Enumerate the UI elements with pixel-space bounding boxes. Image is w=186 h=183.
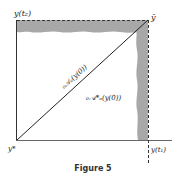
figure-diagram: y(t₂) ȳ y* y(t₁) ₀𝒜ₐ(y(0)) ₀𝒜*ₐ(y(0)) (0, 0, 186, 183)
figure-5: y(t₂) ȳ y* y(t₁) ₀𝒜ₐ(y(0)) ₀𝒜*ₐ(y(0)) Fi… (0, 0, 186, 183)
top-shaded-band (17, 20, 148, 33)
right-shaded-band (136, 20, 148, 140)
label-bottom-left: y* (7, 145, 16, 153)
label-lower: ₀𝒜*ₐ(y(0)) (85, 94, 122, 102)
label-top-left: y(t₂) (13, 9, 31, 18)
label-top-right: ȳ (150, 13, 156, 22)
label-bottom-right: y(t₁) (150, 146, 166, 154)
diagonal-line (17, 20, 148, 140)
figure-caption: Figure 5 (0, 164, 186, 173)
